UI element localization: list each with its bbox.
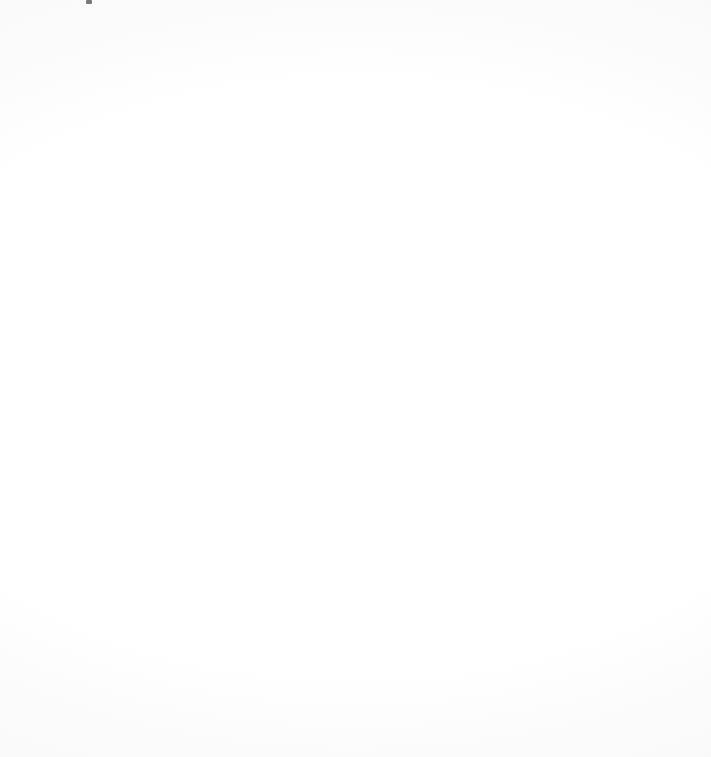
legend-label-disagree — [453, 8, 695, 30]
paired-bar-chart — [0, 0, 711, 757]
scan-paper-tint — [0, 0, 711, 757]
scan-artifact-speck — [86, 0, 92, 4]
